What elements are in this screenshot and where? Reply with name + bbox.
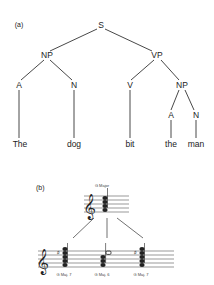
tree-edges	[19, 29, 196, 138]
node-vp: VP	[151, 50, 163, 60]
figure: (a) S NP VP A N V NP A N The dog bit the…	[0, 0, 214, 285]
chord-label-2: G Maj. 6	[94, 272, 110, 277]
word-man: man	[188, 139, 205, 149]
svg-text:♯: ♯	[57, 249, 60, 255]
node-a-object: A	[168, 110, 174, 120]
node-n: N	[71, 80, 77, 90]
node-s: S	[98, 20, 104, 30]
treble-clef-icon-bottom: 𝄞	[36, 249, 49, 275]
word-the: The	[13, 139, 28, 149]
svg-text:♯: ♯	[134, 249, 137, 255]
treble-clef-icon: 𝄞	[83, 194, 96, 220]
node-v: V	[127, 80, 133, 90]
node-np: NP	[41, 50, 53, 60]
node-np-object: NP	[176, 80, 188, 90]
node-n-object: N	[193, 110, 199, 120]
node-a: A	[16, 80, 22, 90]
word-bit: bit	[126, 139, 136, 149]
chord-branches	[73, 218, 143, 238]
panel-b-label: (b)	[36, 184, 45, 192]
word-the-2: the	[165, 139, 177, 149]
top-chord-label: G Major	[95, 183, 110, 188]
chord-label-1: G Maj. 7	[56, 272, 72, 277]
word-dog: dog	[67, 139, 81, 149]
panel-a-label: (a)	[15, 21, 24, 29]
chord-label-3: G Maj. 7	[133, 272, 149, 277]
